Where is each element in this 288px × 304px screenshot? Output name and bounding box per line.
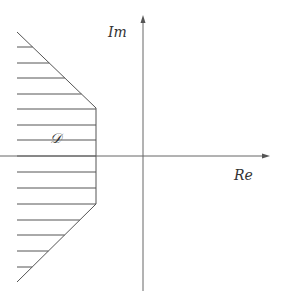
region-boundary — [17, 32, 96, 282]
region-label: 𝒟 — [50, 131, 61, 145]
complex-plane-diagram — [0, 0, 288, 304]
real-axis-arrowhead-icon — [262, 154, 270, 159]
imaginary-axis-label: Im — [108, 25, 127, 39]
imaginary-axis-arrowhead-icon — [141, 15, 146, 23]
real-axis-label: Re — [234, 168, 253, 182]
region-hatching — [17, 47, 96, 267]
